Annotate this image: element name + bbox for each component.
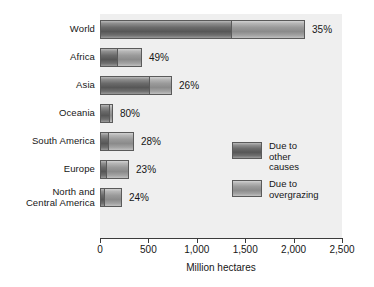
y-axis-label-north-and-central-america: North and Central America [0, 187, 95, 208]
x-axis-tick-label: 0 [97, 244, 103, 255]
bar-segment-overgrazing [100, 48, 118, 67]
bar-segment-other-causes [109, 104, 113, 123]
bar-segment-other-causes [108, 132, 133, 151]
x-axis-line [100, 238, 342, 239]
x-axis-tick [100, 238, 101, 243]
bar-value-label: 35% [312, 20, 332, 39]
x-axis-title: Million hectares [100, 262, 342, 273]
bar-segment-other-causes [106, 160, 129, 179]
bar-value-label: 80% [120, 104, 140, 123]
legend-item-other-causes: Due to other causes [232, 142, 299, 173]
bar-value-label: 23% [136, 160, 156, 179]
x-axis-tick-label: 2,000 [281, 244, 306, 255]
y-axis-label-africa: Africa [0, 52, 95, 63]
y-axis-label-asia: Asia [0, 80, 95, 91]
bar-segment-other-causes [117, 48, 142, 67]
x-axis-tick-label: 500 [140, 244, 157, 255]
legend-swatch-other-causes-icon [232, 142, 262, 159]
legend-label-overgrazing: Due to overgrazing [269, 179, 319, 200]
bar-value-label: 49% [149, 48, 169, 67]
y-axis-label-world: World [0, 24, 95, 35]
x-axis-tick [197, 238, 198, 243]
bar-value-label: 28% [141, 132, 161, 151]
chart-figure: World Africa Asia Oceania South America … [0, 0, 374, 287]
legend-label-other-causes: Due to other causes [269, 141, 299, 173]
bar-value-label: 26% [179, 76, 199, 95]
x-axis-tick-label: 1,000 [184, 244, 209, 255]
bar-segment-overgrazing [100, 20, 232, 39]
x-axis-tick [245, 238, 246, 243]
x-axis-tick [148, 238, 149, 243]
bar-segment-other-causes [104, 188, 122, 207]
bar-value-label: 24% [129, 188, 149, 207]
x-axis-tick-label: 2,500 [329, 244, 354, 255]
bar-segment-overgrazing [100, 76, 150, 95]
bar-segment-other-causes [149, 76, 172, 95]
x-axis-tick [342, 238, 343, 243]
x-axis-tick [294, 238, 295, 243]
bar-segment-other-causes [231, 20, 305, 39]
x-axis-tick-label: 1,500 [233, 244, 258, 255]
y-axis-label-south-america: South America [0, 136, 95, 147]
y-axis-label-europe: Europe [0, 164, 95, 175]
legend-item-overgrazing: Due to overgrazing [232, 180, 319, 200]
y-axis-label-oceania: Oceania [0, 108, 95, 119]
legend-swatch-overgrazing-icon [232, 180, 262, 197]
